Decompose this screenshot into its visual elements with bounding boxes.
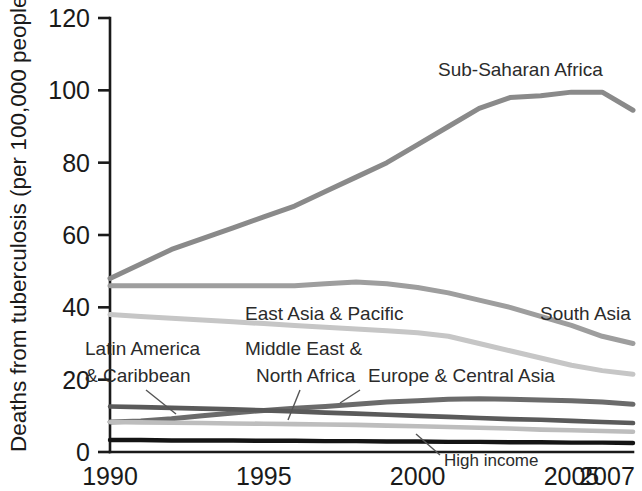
series-label-sub-saharan-africa: Sub-Saharan Africa [438, 59, 603, 80]
y-tick-label: 120 [48, 4, 90, 32]
x-tick-label: 2000 [390, 462, 446, 490]
series-label-high-income: High income [444, 451, 539, 470]
y-tick-label: 40 [62, 293, 90, 321]
series-lines [110, 92, 633, 443]
series-label-europe-central-asia: Europe & Central Asia [368, 365, 555, 386]
series-line-high-income [110, 440, 633, 443]
leader-europe-central-asia [340, 390, 360, 403]
series-line-sub-saharan-africa [110, 92, 633, 278]
y-tick-label: 60 [62, 221, 90, 249]
x-tick-label: 2007 [579, 462, 635, 490]
series-label-latin-america: Latin America [85, 338, 201, 359]
series-label-south-asia: South Asia [540, 303, 631, 324]
leader-latin-america [146, 390, 176, 414]
x-tick-label: 1995 [236, 462, 292, 490]
y-axis-ticks: 020406080100120 [48, 4, 110, 466]
chart-canvas: Deaths from tuberculosis (per 100,000 pe… [0, 0, 642, 491]
series-label-caribbean: & Caribbean [85, 365, 191, 386]
series-label-north-africa: North Africa [256, 365, 356, 386]
leader-middle-east [288, 390, 300, 420]
y-axis-title: Deaths from tuberculosis (per 100,000 pe… [6, 0, 31, 452]
y-axis-title-group: Deaths from tuberculosis (per 100,000 pe… [6, 0, 31, 452]
series-label-middle-east: Middle East & [245, 338, 363, 359]
axes [110, 18, 633, 452]
series-label-east-asia-pacific: East Asia & Pacific [245, 303, 403, 324]
x-tick-label: 1990 [82, 462, 138, 490]
y-tick-label: 80 [62, 149, 90, 177]
y-tick-label: 100 [48, 76, 90, 104]
series-line-middle-east-north-africa [110, 422, 633, 432]
x-axis-ticks: 19901995200020052007 [82, 462, 635, 490]
tuberculosis-deaths-line-chart: Deaths from tuberculosis (per 100,000 pe… [0, 0, 642, 491]
